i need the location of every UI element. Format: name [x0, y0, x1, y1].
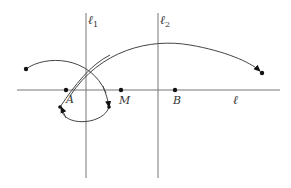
label-a: A [65, 93, 74, 106]
arc-arrow-down-right [103, 86, 109, 107]
arc-large-translation [70, 43, 260, 96]
label-l2: ℓ2 [160, 13, 170, 29]
point-reflect-left [58, 105, 62, 109]
label-l1: ℓ1 [88, 13, 98, 29]
point-a [64, 88, 68, 92]
label-m: M [118, 94, 131, 107]
point-b [173, 88, 177, 92]
label-b: B [172, 94, 181, 107]
point-start [24, 67, 28, 71]
point-m [119, 88, 123, 92]
diagram-canvas: ℓ1 ℓ2 A M B ℓ [0, 0, 291, 188]
label-l: ℓ [233, 93, 238, 107]
point-end [260, 71, 264, 75]
point-reflect-right [107, 105, 111, 109]
